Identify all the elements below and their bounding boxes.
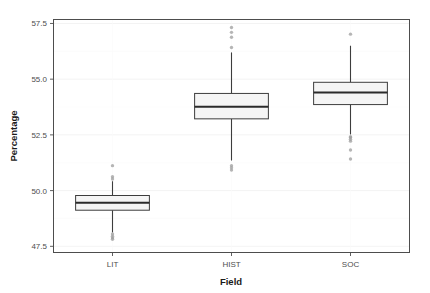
outlier-point (349, 157, 352, 160)
x-axis-title: Field (220, 276, 242, 287)
y-tick-label: 55.0 (31, 75, 47, 84)
outlier-point (230, 26, 233, 29)
outlier-point (111, 177, 114, 180)
outlier-point (111, 237, 114, 240)
outlier-point (230, 168, 233, 171)
outlier-point (230, 36, 233, 39)
y-tick-label: 47.5 (31, 242, 47, 251)
boxplot-svg: 47.550.052.555.057.5 LITHISTSOC Percenta… (0, 0, 430, 293)
x-tick-label-hist: HIST (222, 260, 240, 269)
outlier-point (349, 148, 352, 151)
outlier-point (349, 32, 352, 35)
outlier-point (111, 164, 114, 167)
outlier-point (349, 139, 352, 142)
y-axis-title: Percentage (8, 110, 19, 161)
x-tick-label-lit: LIT (107, 260, 119, 269)
boxplot-figure: 47.550.052.555.057.5 LITHISTSOC Percenta… (0, 0, 430, 293)
y-tick-label: 50.0 (31, 187, 47, 196)
x-tick-label-soc: SOC (342, 260, 360, 269)
outlier-point (230, 31, 233, 34)
y-tick-label: 52.5 (31, 131, 47, 140)
y-tick-label: 57.5 (31, 19, 47, 28)
outlier-point (230, 46, 233, 49)
